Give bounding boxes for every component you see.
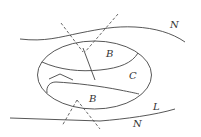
label-l: L <box>153 102 160 112</box>
dashed-line-bottom-right <box>77 100 100 129</box>
label-b-top: B <box>106 49 113 59</box>
curve-upper-inner <box>42 53 138 71</box>
curve-n-top <box>20 27 185 42</box>
dashed-line-top-left <box>61 23 83 52</box>
label-c: C <box>129 71 137 81</box>
dashed-line-top-right <box>85 14 118 52</box>
label-b-bottom: B <box>89 94 96 104</box>
label-n-bottom: N <box>133 119 142 129</box>
diagram: N B C B L N <box>0 0 201 137</box>
curve-n-bottom <box>10 109 175 121</box>
label-n-top: N <box>170 20 179 30</box>
solid-line <box>83 48 95 80</box>
caret-mark <box>49 74 73 80</box>
